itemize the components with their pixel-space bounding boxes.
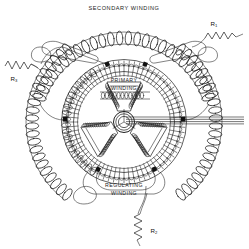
background [0,0,249,249]
induction-regulator-schematic: SECONDARY WINDING PRIMARY WINDING REGULA… [0,0,249,249]
primary-winding-label-line1: PRIMARY [111,77,138,83]
primary-winding-label-line2: WINDING [111,85,137,91]
regulating-winding-label-line2: WINDING [111,190,137,196]
diagram-canvas: SECONDARY WINDING PRIMARY WINDING REGULA… [0,0,249,249]
secondary-winding-label: SECONDARY WINDING [89,5,160,11]
regulating-winding-label-line1: REGULATING [105,182,143,188]
